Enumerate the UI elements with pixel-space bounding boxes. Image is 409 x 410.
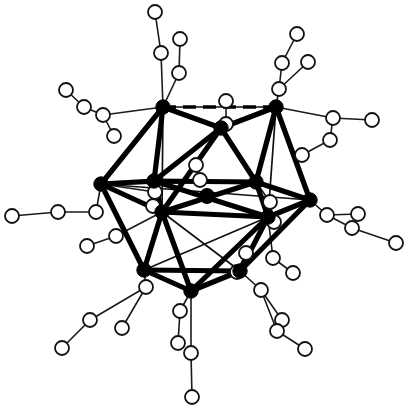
ligand-atom — [286, 266, 300, 280]
ligand-atom — [239, 246, 253, 260]
ligand-atom — [290, 27, 304, 41]
ligand-atom — [320, 208, 334, 222]
molecule-canvas — [0, 0, 409, 410]
metal-atom — [261, 210, 275, 224]
ligand-atom — [254, 283, 268, 297]
ligand-atom — [219, 94, 233, 108]
ligand-atom — [154, 46, 168, 60]
ligand-atom — [139, 280, 153, 294]
ligand-atom — [185, 390, 199, 404]
ligand-atom — [80, 239, 94, 253]
ligand-atom — [263, 195, 277, 209]
ligand-atom — [89, 205, 103, 219]
metal-metal-bond — [144, 270, 240, 271]
ligand-atom — [173, 32, 187, 46]
metal-atom — [249, 175, 263, 189]
ligand-atom — [171, 336, 185, 350]
ligand-atom — [323, 133, 337, 147]
ligand-atom — [107, 129, 121, 143]
metal-atom — [147, 174, 161, 188]
ligand-atom — [301, 55, 315, 69]
ligand-atom — [115, 321, 129, 335]
metal-atom — [233, 264, 247, 278]
molecular-structure-figure — [0, 0, 409, 410]
ligand-atom — [172, 66, 186, 80]
metal-atom — [303, 193, 317, 207]
ligand-atom — [77, 100, 91, 114]
ligand-atom — [295, 148, 309, 162]
metal-atom — [214, 121, 228, 135]
ligand-atom — [193, 173, 207, 187]
metal-atom — [94, 177, 108, 191]
ligand-atom — [184, 346, 198, 360]
ligand-atom — [275, 56, 289, 70]
metal-metal-bond — [101, 181, 154, 184]
ligand-atom — [266, 251, 280, 265]
ligand-atom — [83, 313, 97, 327]
ligand-atom — [148, 5, 162, 19]
ligand-atom — [109, 229, 123, 243]
center-atom-layer — [200, 189, 215, 204]
ligand-atom — [96, 108, 110, 122]
ligand-atom — [55, 341, 69, 355]
ligand-atom — [326, 111, 340, 125]
interstitial-center-atom — [200, 189, 215, 204]
metal-atom — [137, 263, 151, 277]
ligand-atom — [389, 236, 403, 250]
metal-atom — [155, 205, 169, 219]
metal-atom — [184, 284, 198, 298]
ligand-atom — [365, 113, 379, 127]
ligand-atom — [51, 205, 65, 219]
ligand-atom — [173, 304, 187, 318]
ligand-atom — [351, 207, 365, 221]
ligand-atom — [59, 83, 73, 97]
ligand-atom — [270, 324, 284, 338]
ligand-atom — [272, 82, 286, 96]
ligand-atom — [345, 221, 359, 235]
ligand-atom — [5, 209, 19, 223]
metal-atom — [269, 100, 283, 114]
ligand-atom — [189, 158, 203, 172]
ligand-atom — [298, 342, 312, 356]
metal-atom — [156, 100, 170, 114]
